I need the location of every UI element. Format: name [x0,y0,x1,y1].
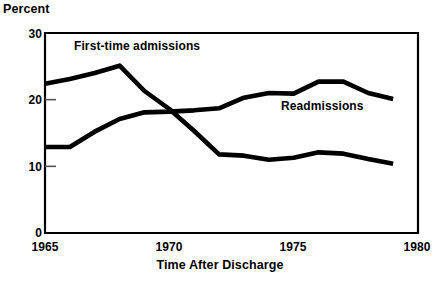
y-axis-ticks [45,100,56,167]
chart-plot-area [0,0,440,282]
data-lines [45,66,393,164]
line-readmissions [45,82,393,147]
plot-frame [45,33,418,233]
chart-figure: Percent 30 20 10 0 1965 1970 1975 1980 T… [0,0,440,282]
